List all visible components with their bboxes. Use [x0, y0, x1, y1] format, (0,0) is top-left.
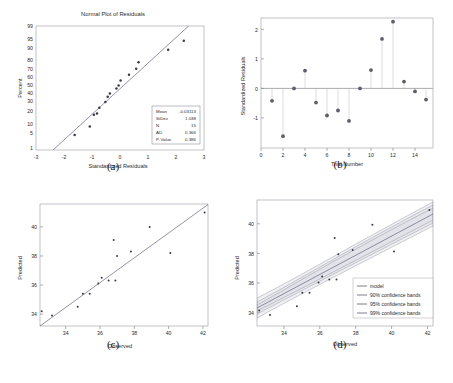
panel-b-yticks: 2 1 0 -1 [253, 27, 264, 122]
svg-text:34: 34 [248, 310, 254, 316]
svg-text:38: 38 [353, 330, 359, 336]
svg-text:38: 38 [31, 253, 37, 259]
stat-label-ad: AD [156, 130, 162, 135]
panel-d-legend: model 90% confidence bands 95% confidenc… [353, 278, 433, 318]
panel-a-yticks: 99 95 90 80 70 60 50 40 30 20 10 5 1 [27, 23, 33, 151]
panel-b-xticks: 0 2 4 6 8 10 12 14 [260, 148, 418, 158]
svg-text:40: 40 [27, 90, 33, 96]
panel-b-points [270, 20, 428, 138]
panel-c-svg: Predicted Observed 40 38 36 34 34 36 38 … [0, 186, 226, 383]
stat-label-pvalue: P-Value [156, 137, 172, 142]
panel-b-svg: Standardized Residuals Trial Number 2 1 … [227, 0, 453, 178]
panel-d-confidence-bands: Predicted Observed 40 38 36 34 34 36 38 … [227, 186, 453, 383]
svg-text:40: 40 [389, 330, 395, 336]
svg-text:70: 70 [27, 66, 33, 72]
svg-text:38: 38 [248, 251, 254, 257]
stat-label-mean: Mean [156, 109, 168, 114]
svg-text:50: 50 [27, 82, 33, 88]
panel-b-caption: (b) [227, 158, 453, 170]
legend-label-99: 99% confidence bands [370, 310, 421, 316]
stat-value-pvalue: 0.386 [185, 137, 197, 142]
svg-text:80: 80 [27, 57, 33, 63]
stat-label-n: N [156, 123, 159, 128]
panel-c-yticks: 40 38 36 34 [31, 224, 43, 317]
svg-text:90: 90 [27, 45, 33, 51]
panel-c-caption: (c) [0, 338, 226, 350]
svg-text:10: 10 [27, 121, 33, 127]
stat-label-stdev: StDev [156, 116, 169, 121]
panel-a-normal-plot: Normal Plot of Residuals Percent Standar… [0, 0, 226, 178]
panel-b-residuals-vs-trial: Standardized Residuals Trial Number 2 1 … [227, 0, 453, 178]
svg-text:-1: -1 [253, 115, 258, 121]
panel-d-svg: Predicted Observed 40 38 36 34 34 36 38 … [227, 186, 453, 383]
figure-container: Normal Plot of Residuals Percent Standar… [0, 0, 453, 383]
svg-text:95: 95 [27, 36, 33, 42]
stat-value-n: 15 [191, 123, 196, 128]
svg-text:1: 1 [30, 145, 33, 151]
panel-c-points [41, 211, 206, 316]
panel-d-xticks: 34 36 38 40 42 [281, 326, 431, 336]
svg-text:34: 34 [31, 311, 37, 317]
svg-text:1: 1 [255, 56, 258, 62]
panel-a-title: Normal Plot of Residuals [81, 11, 145, 17]
svg-text:30: 30 [27, 98, 33, 104]
panel-c-identity-line [40, 205, 208, 327]
svg-text:36: 36 [31, 282, 37, 288]
svg-text:36: 36 [317, 330, 323, 336]
legend-label-90: 90% confidence bands [370, 292, 421, 298]
panel-b-ylabel: Standardized Residuals [240, 56, 246, 115]
legend-label-95: 95% confidence bands [370, 301, 421, 307]
svg-text:40: 40 [248, 221, 254, 227]
svg-text:20: 20 [27, 108, 33, 114]
svg-text:38: 38 [131, 330, 137, 336]
svg-text:40: 40 [31, 224, 37, 230]
svg-text:2: 2 [255, 27, 258, 33]
panel-a-ylabel: Percent [17, 78, 23, 98]
panel-a-svg: Normal Plot of Residuals Percent Standar… [0, 0, 226, 178]
svg-text:5: 5 [30, 130, 33, 136]
svg-text:99: 99 [27, 23, 33, 29]
svg-text:34: 34 [63, 330, 69, 336]
svg-text:42: 42 [200, 330, 206, 336]
svg-text:42: 42 [425, 330, 431, 336]
svg-text:0: 0 [255, 86, 258, 92]
panel-c-observed-vs-predicted: Predicted Observed 40 38 36 34 34 36 38 … [0, 186, 226, 383]
panel-c-xticks: 34 36 38 40 42 [63, 326, 206, 336]
panel-d-ylabel: Predicted [234, 256, 240, 280]
stat-value-stdev: 1.038 [185, 116, 197, 121]
stat-value-mean: -0.03113 [179, 109, 197, 114]
panel-c-ylabel: Predicted [17, 256, 23, 280]
svg-text:34: 34 [281, 330, 287, 336]
panel-d-caption: (d) [227, 338, 453, 350]
svg-text:60: 60 [27, 74, 33, 80]
svg-text:36: 36 [97, 330, 103, 336]
panel-a-caption: (a) [0, 160, 226, 172]
svg-text:36: 36 [248, 280, 254, 286]
panel-b-plot-frame [261, 18, 433, 148]
svg-text:40: 40 [166, 330, 172, 336]
legend-label-model: model [370, 283, 384, 289]
panel-a-stats-box: Mean -0.03113 StDev 1.038 N 15 AD 0.366 … [152, 106, 200, 144]
stat-value-ad: 0.366 [185, 130, 197, 135]
